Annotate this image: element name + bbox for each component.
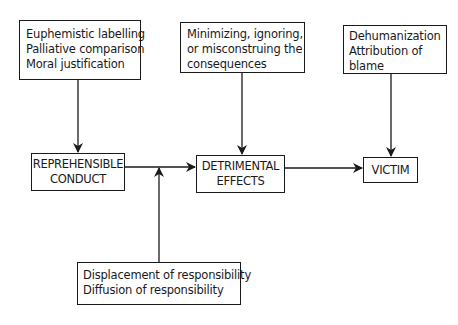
label-minimizing-ignoring: Minimizing, ignoring, [187,27,304,42]
label-moral-justification: Moral justification [26,57,140,72]
box-justification-mechanisms: Euphemistic labelling Palliative compari… [19,20,141,80]
box-consequence-mechanisms: Minimizing, ignoring, or misconstruing t… [180,22,305,73]
label-diffusion-of-responsibility: Diffusion of responsibility [83,283,240,298]
label-dehumanization: Dehumanization [349,29,446,44]
box-detrimental-effects: DETRIMENTAL EFFECTS [196,155,285,193]
label-misconstruing: or misconstruing the [187,42,304,57]
label-reprehensible: REPREHENSIBLE [32,157,124,172]
label-effects: EFFECTS [197,174,284,189]
box-victim-mechanisms: Dehumanization Attribution of blame [343,25,447,74]
moral-disengagement-diagram: Euphemistic labelling Palliative compari… [0,0,458,325]
label-displacement-of-responsibility: Displacement of responsibility [83,268,240,283]
box-responsibility-mechanisms: Displacement of responsibility Diffusion… [77,262,241,305]
label-palliative-comparison: Palliative comparison [26,42,140,57]
label-blame: blame [349,59,446,74]
label-detrimental: DETRIMENTAL [197,159,284,174]
box-reprehensible-conduct: REPREHENSIBLE CONDUCT [31,153,125,191]
label-euphemistic-labelling: Euphemistic labelling [26,27,140,42]
label-attribution-of: Attribution of [349,44,446,59]
label-conduct: CONDUCT [32,172,124,187]
label-victim: VICTIM [364,163,417,178]
label-consequences: consequences [187,57,304,72]
box-victim: VICTIM [363,157,418,183]
